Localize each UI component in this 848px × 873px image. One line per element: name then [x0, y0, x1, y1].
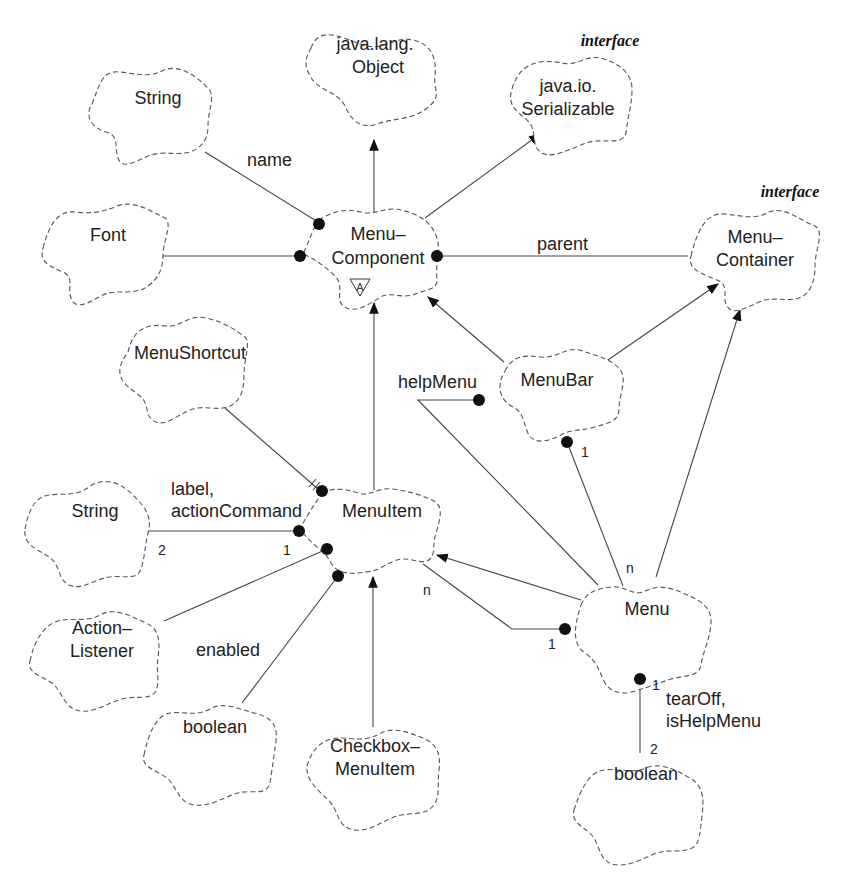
role-tearoff-2: isHelpMenu [666, 711, 761, 731]
dot-menushortcut [316, 485, 328, 497]
dot-menu-items [559, 623, 571, 635]
stereotype-serializable: interface [581, 32, 640, 50]
dot-name [313, 218, 325, 230]
assoc-menushortcut [225, 408, 318, 489]
label-menu-component-2: Component [331, 248, 424, 268]
label-checkbox-1: Checkbox– [330, 736, 420, 756]
role-label-2: actionCommand [171, 501, 302, 521]
label-object-2: Object [352, 57, 404, 77]
class-diagram: java.lang. Object java.io. Serializable … [0, 0, 848, 873]
role-parent: parent [537, 234, 588, 254]
label-menu-item: MenuItem [342, 501, 422, 521]
label-object-1: java.lang. [335, 34, 413, 54]
label-serializable-2: Serializable [521, 99, 614, 119]
dot-actionlistener [321, 543, 333, 555]
abstract-marker: A [356, 281, 364, 293]
role-tearoff-1: tearOff, [666, 689, 726, 709]
mult-label-owner: 1 [283, 542, 291, 558]
label-string-name: String [134, 88, 181, 108]
dot-menubar-menus [561, 436, 573, 448]
mult-menuitems-target: n [423, 582, 431, 598]
assoc-actionlistener [164, 549, 327, 621]
class-font[interactable] [42, 204, 168, 305]
assoc-menubar-menu [567, 442, 623, 586]
stereotype-menu-container: interface [761, 183, 820, 201]
class-clouds [25, 35, 820, 865]
class-menu-bar[interactable] [500, 349, 623, 441]
label-menu-bar: MenuBar [520, 370, 593, 390]
label-menu-shortcut: MenuShortcut [134, 343, 246, 363]
dot-helpmenu [473, 394, 485, 406]
label-action-listener-2: Listener [70, 641, 134, 661]
assoc-menu-menuitems [423, 564, 564, 629]
label-serializable-1: java.io. [538, 76, 596, 96]
label-menu-container-2: Container [716, 250, 794, 270]
role-helpmenu: helpMenu [398, 372, 477, 392]
inherit-menubar-menucontainer [605, 284, 718, 362]
role-label-1: label, [171, 479, 214, 499]
dot-label [293, 525, 305, 537]
role-enabled: enabled [196, 640, 260, 660]
label-action-listener-1: Action– [72, 618, 132, 638]
dot-parent [431, 250, 443, 262]
label-menu-container-1: Menu– [727, 227, 782, 247]
label-boolean-menu: boolean [614, 764, 678, 784]
dot-tearoff [634, 673, 646, 685]
inherit-menucomponent-serializable [425, 134, 540, 218]
label-menu: Menu [624, 599, 669, 619]
class-string-name[interactable] [89, 68, 212, 164]
class-menu-shortcut[interactable] [120, 317, 248, 423]
label-boolean-enabled: boolean [183, 717, 247, 737]
mult-menubar-target: n [626, 560, 634, 576]
dot-font [294, 250, 306, 262]
dot-enabled [332, 570, 344, 582]
mult-label-target: 2 [158, 542, 166, 558]
label-string-label: String [71, 501, 118, 521]
inherit-menubar-menucomponent [428, 297, 504, 362]
inherit-menu-menucontainer [656, 310, 740, 577]
label-checkbox-2: MenuItem [335, 759, 415, 779]
mult-menubar-owner: 1 [581, 444, 589, 460]
inherit-menu-menuitem [437, 555, 581, 600]
class-string-label[interactable] [25, 481, 150, 586]
mult-tearoff-owner: 1 [652, 677, 660, 693]
label-menu-component-1: Menu– [350, 224, 405, 244]
role-name: name [247, 150, 292, 170]
mult-menuitems-owner: 1 [548, 636, 556, 652]
mult-tearoff-target: 2 [650, 741, 658, 757]
label-font: Font [90, 225, 126, 245]
